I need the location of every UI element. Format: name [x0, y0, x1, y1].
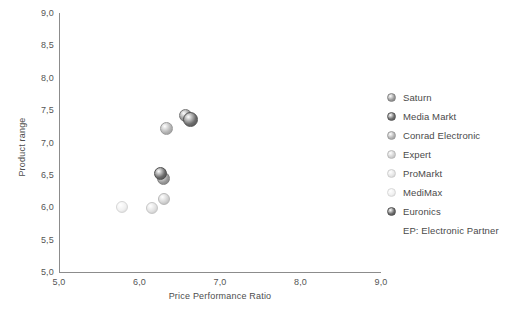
legend-item-label: Euronics [403, 206, 441, 217]
y-tick-text: 8,0 [22, 73, 54, 83]
data-point-bubble [160, 122, 173, 135]
legend-marker-icon [387, 112, 396, 121]
x-tick-label: 5,0 [39, 277, 79, 287]
legend-marker-icon [387, 207, 396, 216]
legend-item-promarkt[interactable]: ProMarkt [387, 164, 512, 183]
y-tick-text: 5,5 [22, 235, 54, 245]
y-tick-text: 8,5 [22, 40, 54, 50]
legend-note: EP: Electronic Partner [387, 225, 512, 236]
data-point-bubble [154, 167, 167, 180]
legend: SaturnMedia MarktConrad ElectronicExpert… [387, 88, 512, 236]
plot-area [59, 13, 381, 272]
legend-item-label: MediMax [403, 187, 442, 198]
x-tick-label: 6,0 [120, 277, 160, 287]
data-point-bubble [158, 193, 170, 205]
legend-item-label: Saturn [403, 92, 432, 103]
x-axis-title: Price Performance Ratio [59, 291, 381, 301]
legend-item-media-markt[interactable]: Media Markt [387, 107, 512, 126]
legend-marker-icon [387, 131, 396, 140]
data-point-bubble [146, 202, 158, 214]
data-point-bubble [183, 112, 198, 127]
x-axis-line [59, 272, 381, 273]
y-tick-text: 9,0 [22, 8, 54, 18]
legend-item-medimax[interactable]: MediMax [387, 183, 512, 202]
data-point-bubble [116, 201, 128, 213]
legend-item-euronics[interactable]: Euronics [387, 202, 512, 221]
legend-item-label: Expert [403, 149, 431, 160]
legend-marker-icon [387, 169, 396, 178]
x-tick-label: 8,0 [281, 277, 321, 287]
x-tick-label: 7,0 [200, 277, 240, 287]
y-tick-text: 5,0 [22, 267, 54, 277]
legend-marker-icon [387, 188, 396, 197]
legend-item-label: Media Markt [403, 111, 456, 122]
bubble-chart: 5,05,56,06,57,07,58,08,59,0 5,06,07,08,0… [0, 0, 514, 318]
legend-marker-icon [387, 93, 396, 102]
legend-marker-icon [387, 150, 396, 159]
legend-item-label: Conrad Electronic [403, 130, 480, 141]
legend-item-label: ProMarkt [403, 168, 442, 179]
x-tick-label: 9,0 [361, 277, 401, 287]
legend-item-expert[interactable]: Expert [387, 145, 512, 164]
legend-item-saturn[interactable]: Saturn [387, 88, 512, 107]
y-axis-title: Product range [17, 87, 27, 207]
legend-item-conrad-electronic[interactable]: Conrad Electronic [387, 126, 512, 145]
